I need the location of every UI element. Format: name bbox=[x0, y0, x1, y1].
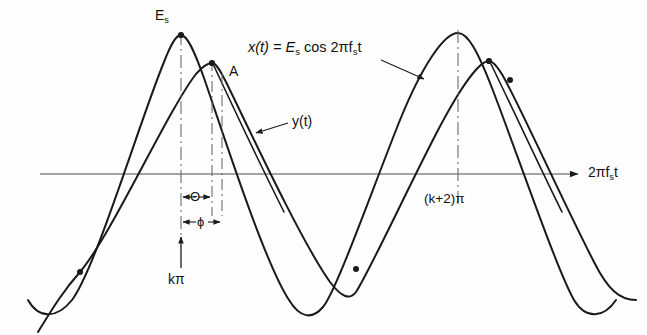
marker-dots bbox=[77, 32, 513, 275]
peak-dot-y1 bbox=[209, 60, 215, 66]
leader-y-of-t bbox=[256, 123, 288, 133]
amplitude-label-es: Es bbox=[155, 8, 169, 25]
x-axis-label: 2πfst bbox=[588, 165, 618, 182]
tangency-dot-left bbox=[77, 269, 83, 275]
tangency-dot-right bbox=[507, 77, 513, 83]
k-plus-2-pi-label: (k+2)π bbox=[424, 192, 464, 206]
tangent-stub-right bbox=[491, 64, 562, 212]
dimension-label-phi: ϕ bbox=[197, 215, 204, 228]
point-a-label: A bbox=[229, 64, 238, 78]
equation-label: x(t) = Es cos 2πfst bbox=[248, 40, 361, 56]
leader-equation bbox=[381, 60, 424, 79]
k-pi-label: kπ bbox=[168, 272, 185, 286]
curve-y-label: y(t) bbox=[292, 114, 312, 128]
crossing-dot-mid bbox=[353, 266, 359, 272]
peak-dot-y2 bbox=[486, 58, 492, 64]
figure-canvas: Es x(t) = Es cos 2πfst A y(t) 2πfst Θ ϕ … bbox=[0, 0, 647, 335]
curve-y-of-t bbox=[38, 61, 636, 332]
peak-dot-x1 bbox=[178, 32, 184, 38]
dimension-label-theta: Θ bbox=[190, 190, 200, 203]
